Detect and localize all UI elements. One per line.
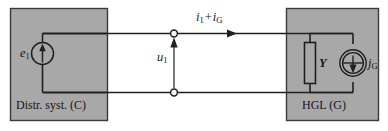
label-block-hgl: HGL (G) — [302, 99, 346, 111]
operator-plus: + — [204, 10, 213, 24]
subscript-iG: G — [216, 15, 222, 25]
label-voltage-source-e1: e1 — [20, 47, 30, 60]
terminal-top[interactable] — [171, 30, 178, 37]
subscript-jG: G — [371, 61, 377, 71]
label-current-source-jG: jG — [368, 57, 378, 70]
terminal-bottom[interactable] — [171, 89, 178, 96]
admittance-Y-body — [305, 43, 316, 84]
subscript-e1: 1 — [26, 51, 30, 61]
label-voltage-u1: u1 — [157, 51, 168, 64]
circuit-diagram-figure: e1 Distr. syst. (C) u1 i1+iG Y jG HGL (G… — [0, 0, 388, 131]
label-block-distribution-system: Distr. syst. (C) — [16, 99, 86, 111]
label-current-sum: i1+iG — [196, 11, 222, 24]
current-direction-arrow-head — [227, 30, 237, 38]
label-admittance-Y: Y — [319, 57, 327, 70]
voltage-measure-arrow-u1 — [170, 38, 177, 48]
subscript-u1: 1 — [163, 55, 167, 65]
